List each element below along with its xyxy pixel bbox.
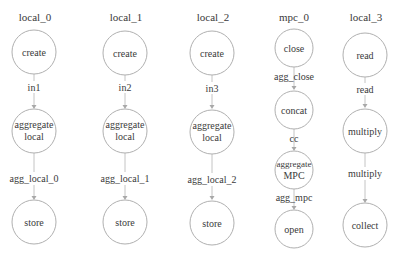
node-concat[interactable]: concat — [275, 91, 313, 129]
node-label: store — [24, 217, 44, 228]
node-label: create — [22, 47, 46, 58]
edge-label: agg_local_0 — [10, 173, 59, 184]
edge-label: agg_local_1 — [101, 173, 150, 184]
node-label: store — [202, 218, 222, 229]
node-store[interactable]: store — [12, 200, 56, 244]
column-local-0: local_0 create in1 aggregate local agg_l… — [4, 11, 64, 244]
node-label: create — [113, 48, 137, 59]
node-collect[interactable]: collect — [343, 203, 387, 247]
node-label: MPC — [283, 170, 304, 181]
node-label: multiply — [348, 126, 382, 137]
node-label: local — [24, 131, 44, 142]
arrow-head-icon — [210, 105, 215, 109]
node-label: aggregate — [106, 119, 145, 130]
node-create[interactable]: create — [12, 30, 56, 74]
node-label: close — [284, 43, 305, 54]
arrow-head-icon — [123, 196, 128, 200]
node-multiply[interactable]: multiply — [343, 109, 387, 153]
column-local-3: local_3 read read multiply multiply coll… — [343, 11, 387, 247]
column-local-2: local_2 create in3 aggregate local agg_l… — [182, 11, 242, 245]
edge-label: in1 — [28, 82, 41, 93]
arrow-head-icon — [363, 104, 368, 108]
node-create[interactable]: create — [103, 31, 147, 75]
edge-label: agg_close — [274, 71, 315, 82]
column-mpc-0: mpc_0 close agg_close concat cc aggregat… — [274, 11, 315, 248]
column-title: local_2 — [197, 11, 229, 23]
arrow-head-icon — [210, 196, 215, 200]
edge-label: agg_local_2 — [188, 174, 237, 185]
arrow-head-icon — [292, 147, 297, 151]
node-create[interactable]: create — [190, 31, 234, 75]
node-store[interactable]: store — [190, 201, 234, 245]
node-open[interactable]: open — [275, 210, 313, 248]
node-label: open — [284, 224, 303, 235]
column-title: mpc_0 — [279, 11, 309, 23]
node-aggregate-local[interactable]: aggregate local — [12, 109, 56, 153]
edge-label: cc — [290, 133, 299, 144]
edge-label: in2 — [119, 82, 132, 93]
arrow-head-icon — [292, 86, 297, 90]
node-label: local — [115, 131, 135, 142]
node-label: read — [356, 50, 373, 61]
node-label: aggregate — [193, 120, 232, 131]
arrow-head-icon — [292, 206, 297, 210]
column-title: local_1 — [110, 11, 142, 23]
node-aggregate-mpc[interactable]: aggregate MPC — [275, 151, 313, 189]
node-aggregate-local[interactable]: aggregate local — [103, 109, 147, 153]
arrow-head-icon — [363, 199, 368, 203]
edge-label: read — [356, 84, 373, 95]
node-label: store — [115, 217, 135, 228]
column-title: local_0 — [19, 11, 52, 23]
node-label: collect — [352, 220, 379, 231]
edge-label: agg_mpc — [276, 192, 313, 203]
node-aggregate-local[interactable]: aggregate local — [190, 110, 234, 154]
node-label: aggregate — [15, 119, 54, 130]
edge-label: in3 — [206, 83, 219, 94]
dataflow-diagram: local_0 create in1 aggregate local agg_l… — [0, 0, 399, 260]
node-store[interactable]: store — [103, 200, 147, 244]
arrow-head-icon — [123, 105, 128, 109]
node-label: concat — [281, 105, 307, 116]
column-title: local_3 — [350, 11, 383, 23]
arrow-head-icon — [32, 105, 37, 109]
arrow-head-icon — [32, 196, 37, 200]
node-read[interactable]: read — [343, 33, 387, 77]
node-label: aggregate — [277, 159, 312, 169]
edge-label: multiply — [348, 168, 382, 179]
node-close[interactable]: close — [275, 29, 313, 67]
column-local-1: local_1 create in2 aggregate local agg_l… — [95, 11, 155, 244]
node-label: create — [200, 48, 224, 59]
node-label: local — [202, 132, 222, 143]
